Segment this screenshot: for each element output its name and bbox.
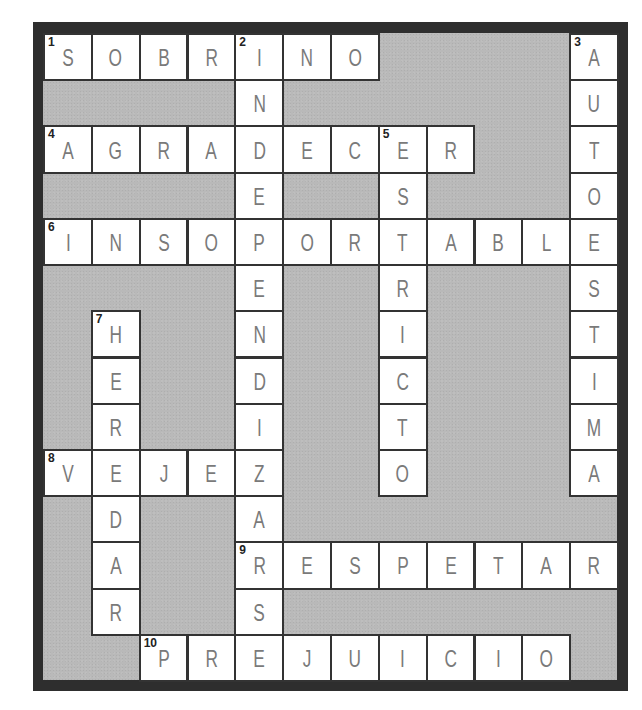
crossword-cell[interactable]: 6I: [43, 218, 93, 266]
crossword-cell[interactable]: T: [569, 125, 619, 173]
crossword-cell[interactable]: 9R: [234, 541, 284, 589]
crossword-cell[interactable]: R: [91, 403, 141, 451]
crossword-cell[interactable]: A: [187, 125, 237, 173]
crossword-cell[interactable]: T: [569, 310, 619, 358]
cell-letter: T: [589, 323, 600, 347]
crossword-cell[interactable]: P: [234, 218, 284, 266]
cell-letter: A: [110, 554, 122, 578]
crossword-cell[interactable]: T: [378, 403, 428, 451]
crossword-cell[interactable]: O: [282, 218, 332, 266]
crossword-cell[interactable]: D: [91, 495, 141, 543]
cell-letter: S: [253, 601, 265, 625]
cell-letter: N: [253, 92, 265, 116]
crossword-cell[interactable]: J: [139, 449, 189, 497]
crossword-cell[interactable]: 8V: [43, 449, 93, 497]
cell-letter: T: [493, 554, 504, 578]
crossword-cell[interactable]: U: [330, 634, 380, 682]
crossword-cell[interactable]: E: [91, 357, 141, 405]
crossword-cell[interactable]: I: [234, 403, 284, 451]
crossword-cell[interactable]: L: [521, 218, 571, 266]
crossword-cell[interactable]: O: [91, 33, 141, 81]
crossword-cell[interactable]: I: [569, 357, 619, 405]
crossword-cell[interactable]: I: [474, 634, 524, 682]
crossword-cell[interactable]: C: [330, 125, 380, 173]
crossword-cell[interactable]: E: [282, 541, 332, 589]
crossword-cell[interactable]: A: [569, 449, 619, 497]
cell-letter: P: [158, 647, 170, 671]
crossword-cell[interactable]: A: [91, 541, 141, 589]
crossword-cell[interactable]: D: [234, 125, 284, 173]
crossword-cell[interactable]: 10P: [139, 634, 189, 682]
crossword-cell[interactable]: N: [234, 310, 284, 358]
crossword-cell[interactable]: R: [187, 33, 237, 81]
crossword-cell[interactable]: 2I: [234, 33, 284, 81]
crossword-cell[interactable]: T: [474, 541, 524, 589]
cell-letter: G: [109, 139, 122, 163]
crossword-cell[interactable]: C: [426, 634, 476, 682]
cell-letter: R: [396, 277, 408, 301]
crossword-cell[interactable]: 5E: [378, 125, 428, 173]
crossword-cell[interactable]: E: [282, 125, 332, 173]
crossword-cell[interactable]: U: [569, 79, 619, 127]
crossword-cell[interactable]: I: [378, 634, 428, 682]
crossword-cell[interactable]: 7H: [91, 310, 141, 358]
crossword-cell[interactable]: N: [91, 218, 141, 266]
crossword-cell[interactable]: E: [187, 449, 237, 497]
crossword-cell[interactable]: O: [521, 634, 571, 682]
cell-letter: N: [253, 323, 265, 347]
cell-letter: B: [493, 231, 505, 255]
cell-letter: C: [444, 647, 456, 671]
clue-number: 5: [383, 128, 390, 140]
crossword-cell[interactable]: R: [378, 264, 428, 312]
cell-letter: R: [349, 231, 361, 255]
crossword-cell[interactable]: R: [139, 125, 189, 173]
crossword-cell[interactable]: M: [569, 403, 619, 451]
crossword-cell[interactable]: E: [234, 172, 284, 220]
crossword-cell[interactable]: T: [378, 218, 428, 266]
crossword-cell[interactable]: N: [282, 33, 332, 81]
crossword-cell[interactable]: E: [91, 449, 141, 497]
crossword-cell[interactable]: Z: [234, 449, 284, 497]
crossword-cell[interactable]: A: [521, 541, 571, 589]
crossword-cell[interactable]: I: [378, 310, 428, 358]
cell-letter: V: [62, 462, 74, 486]
crossword-cell[interactable]: O: [330, 33, 380, 81]
cell-letter: E: [397, 139, 409, 163]
crossword-cell[interactable]: A: [234, 495, 284, 543]
crossword-cell[interactable]: O: [378, 449, 428, 497]
crossword-cell[interactable]: R: [426, 125, 476, 173]
crossword-cell[interactable]: S: [234, 588, 284, 636]
crossword-cell[interactable]: E: [569, 218, 619, 266]
crossword-cell[interactable]: E: [234, 264, 284, 312]
crossword-cell[interactable]: R: [187, 634, 237, 682]
crossword-cell[interactable]: E: [234, 634, 284, 682]
crossword-cell[interactable]: S: [330, 541, 380, 589]
crossword-cell[interactable]: G: [91, 125, 141, 173]
crossword-cell[interactable]: D: [234, 357, 284, 405]
crossword-cell[interactable]: E: [426, 541, 476, 589]
crossword-cell[interactable]: B: [474, 218, 524, 266]
crossword-cell[interactable]: O: [569, 172, 619, 220]
cell-letter: E: [301, 139, 313, 163]
cell-letter: I: [496, 647, 501, 671]
crossword-cell[interactable]: A: [426, 218, 476, 266]
crossword-cell[interactable]: R: [330, 218, 380, 266]
crossword-cell[interactable]: B: [139, 33, 189, 81]
crossword-cell[interactable]: 3A: [569, 33, 619, 81]
crossword-cell[interactable]: P: [378, 541, 428, 589]
crossword-cell[interactable]: C: [378, 357, 428, 405]
crossword-cell[interactable]: R: [569, 541, 619, 589]
cell-letter: E: [253, 185, 265, 209]
crossword-cell[interactable]: R: [91, 588, 141, 636]
crossword-cell[interactable]: 1S: [43, 33, 93, 81]
cell-letter: J: [303, 647, 312, 671]
crossword-cell[interactable]: J: [282, 634, 332, 682]
crossword-cell[interactable]: S: [139, 218, 189, 266]
crossword-cell[interactable]: S: [378, 172, 428, 220]
crossword-cell[interactable]: O: [187, 218, 237, 266]
crossword-cell[interactable]: N: [234, 79, 284, 127]
crossword-cell[interactable]: 4A: [43, 125, 93, 173]
crossword-cell[interactable]: S: [569, 264, 619, 312]
cell-letter: O: [587, 185, 600, 209]
cell-letter: S: [62, 46, 74, 70]
